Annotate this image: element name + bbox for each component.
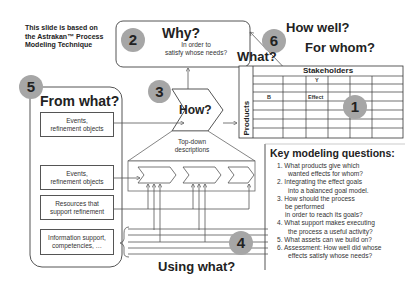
key-questions-list: 1. What products give which wanted effec… — [277, 162, 417, 260]
question-line: 6. Assessment: How well did whose — [277, 244, 417, 252]
box-line: Events, — [50, 170, 103, 178]
key-questions-title: Key modeling questions: — [270, 147, 395, 159]
question-line: effects satisfy whose needs? — [277, 252, 417, 260]
question-line: 4. What support makes executing — [277, 219, 417, 227]
question-line: 2. Integrating the effect goals — [277, 178, 417, 186]
question-line: into a balanced goal model. — [277, 187, 417, 195]
top-down-line: Top-down — [160, 138, 224, 146]
box-line: Resources that — [50, 200, 104, 208]
question-line: in order to reach its goals? — [277, 211, 417, 219]
note-line: the Astrakan™ Process — [25, 33, 103, 42]
question-line: be performed — [277, 203, 417, 211]
resources-box: Resources thatsupport refinement — [40, 195, 114, 220]
why-title: Why? — [162, 25, 200, 41]
how-title: How? — [179, 103, 212, 117]
question-line: 3. How should the process — [277, 195, 417, 203]
question-line: 5. What assets can we build on? — [277, 236, 417, 244]
box-line: refinement objects — [50, 178, 103, 186]
box-line: refinement objects — [50, 125, 103, 133]
step-badge-4: 4 — [229, 231, 253, 255]
what-title: What? — [237, 49, 277, 64]
how-well-title: How well? — [286, 20, 350, 35]
step-badge-3: 3 — [148, 80, 171, 103]
box-line: Events, — [50, 117, 103, 125]
row-marker-b: B — [267, 94, 271, 100]
note-line: Modeling Technique — [25, 41, 103, 50]
note-line: This slide is based on — [25, 24, 103, 33]
astrakan-note: This slide is based on the Astrakan™ Pro… — [25, 24, 103, 50]
box-line: support refinement — [50, 208, 104, 216]
why-subtitle: In order to satisfy whose needs? — [148, 41, 244, 57]
for-whom-title: For whom? — [305, 40, 375, 55]
events-box-1: Events,refinement objects — [40, 112, 114, 137]
box-line: Information support, — [48, 234, 106, 242]
why-sub-line: In order to — [148, 41, 244, 49]
step-badge-1: 1 — [343, 95, 367, 119]
information-support-box: Information support,competencies, … — [40, 229, 114, 255]
step-badge-2: 2 — [121, 28, 145, 52]
why-sub-line: satisfy whose needs? — [148, 49, 244, 57]
box-line: competencies, … — [48, 242, 106, 250]
col-marker-y: Y — [315, 77, 319, 83]
events-box-2: Events,refinement objects — [40, 165, 114, 190]
top-down-line: descriptions — [160, 146, 224, 154]
question-line: 1. What products give which — [277, 162, 417, 170]
using-what-title: Using what? — [158, 259, 235, 274]
from-what-title: From what? — [40, 93, 119, 109]
top-down-label: Top-down descriptions — [160, 138, 224, 154]
products-row-label: Products — [242, 106, 251, 136]
question-line: the process a useful activity? — [277, 228, 417, 236]
question-line: wanted effects for whom? — [277, 170, 417, 178]
stakeholders-header: Stakeholders — [253, 66, 403, 76]
effect-cell: Effect — [308, 94, 323, 100]
